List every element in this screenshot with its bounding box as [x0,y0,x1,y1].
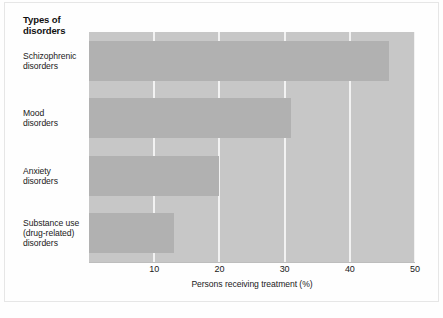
category-label-2-line-1: disorders [23,176,91,186]
bar-1 [89,98,291,138]
chart-figure: Types of disorders Schizophrenicdisorder… [0,0,443,318]
category-label-1-line-0: Mood [23,108,91,118]
x-tick-label-10: 10 [149,264,159,274]
category-label-2: Anxietydisorders [23,166,91,186]
plot-area [89,32,415,262]
category-label-0: Schizophrenicdisorders [23,51,91,71]
category-label-3-line-0: Substance use [23,218,91,228]
gridline-50 [414,32,415,262]
x-tick-label-50: 50 [410,264,420,274]
category-label-0-line-0: Schizophrenic [23,51,91,61]
chart-title-line-1: Types of [23,14,103,25]
category-label-0-line-1: disorders [23,61,91,71]
category-label-3-line-1: (drug-related) [23,228,91,238]
category-label-1: Mooddisorders [23,108,91,128]
x-tick-label-30: 30 [280,264,290,274]
bar-0 [89,41,389,81]
bar-2 [89,156,219,196]
x-tick-label-40: 40 [345,264,355,274]
category-label-3: Substance use(drug-related)disorders [23,218,91,248]
category-label-3-line-2: disorders [23,238,91,248]
category-label-1-line-1: disorders [23,118,91,128]
x-axis-title: Persons receiving treatment (%) [89,279,415,289]
x-axis-line [89,262,415,263]
bar-3 [89,213,174,253]
category-label-2-line-0: Anxiety [23,166,91,176]
x-tick-label-20: 20 [214,264,224,274]
